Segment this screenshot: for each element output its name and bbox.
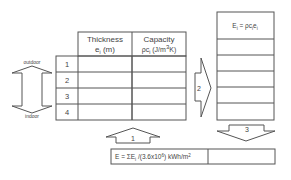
left-table: Thickness ei (m) Capacity ρci (J/m3K) 1 … (56, 32, 186, 120)
header-thickness-unit: ei (m) (95, 45, 115, 55)
header-capacity-unit: ρci (J/m3K) (142, 44, 177, 55)
result-field[interactable] (209, 150, 274, 163)
step-2-label: 2 (197, 85, 201, 92)
double-arrow-icon (12, 66, 52, 113)
step-3-label: 3 (245, 126, 249, 133)
energy-diagram: Thickness ei (m) Capacity ρci (J/m3K) 1 … (0, 0, 291, 180)
label-outdoor: outdoor (24, 59, 41, 65)
formula-box: E = ΣEi /(3.6x106) kWh/m2 (111, 149, 275, 164)
row-number: 3 (65, 92, 69, 101)
step-1-label: 1 (131, 135, 135, 142)
row-number: 2 (65, 76, 69, 85)
label-indoor: indoor (25, 113, 39, 119)
right-table: Ei = ρciei (217, 12, 274, 120)
header-thickness: Thickness (87, 35, 123, 44)
header-capacity: Capacity (143, 35, 174, 44)
row-number: 1 (65, 60, 69, 69)
row-number: 4 (65, 108, 69, 117)
